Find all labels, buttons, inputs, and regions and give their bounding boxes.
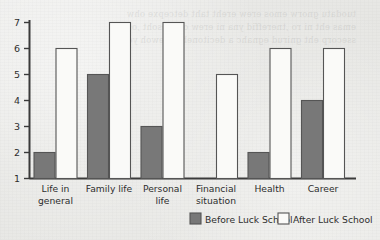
bars-group bbox=[34, 23, 345, 179]
legend-swatch-after bbox=[278, 213, 289, 224]
bar-after-family-life bbox=[110, 23, 131, 179]
bar-after-health bbox=[270, 49, 291, 179]
category-label-career: Career bbox=[308, 183, 339, 194]
y-tick-label-5: 5 bbox=[14, 69, 20, 80]
bar-before-life-in-general bbox=[34, 153, 55, 179]
chart-legend: Before Luck SchoolAfter Luck School bbox=[190, 213, 373, 225]
chart-plot-area: 1 2 3 4 5 6 7 Life ingeneralFamily lifeP… bbox=[0, 0, 380, 240]
category-label-life-in-general: Life in bbox=[42, 183, 70, 194]
y-tick-label-1: 1 bbox=[14, 173, 20, 184]
y-axis-tick-labels: 1 2 3 4 5 6 7 bbox=[14, 17, 20, 184]
legend-label-after: After Luck School bbox=[293, 214, 373, 225]
category-label-life-in-general: general bbox=[38, 195, 73, 206]
bar-after-career bbox=[324, 49, 345, 179]
bar-after-personal-life bbox=[163, 23, 184, 179]
category-label-family-life: Family life bbox=[86, 183, 133, 194]
luck-school-bar-chart: tuodatu gnorw emos erew ereht taht detce… bbox=[0, 0, 380, 240]
bar-before-health bbox=[248, 153, 269, 179]
y-tick-label-6: 6 bbox=[14, 43, 20, 54]
bar-after-financial-situation bbox=[217, 75, 238, 179]
bar-before-family-life bbox=[88, 75, 109, 179]
y-tick-label-2: 2 bbox=[14, 147, 20, 158]
bar-before-personal-life bbox=[141, 127, 162, 179]
legend-swatch-before bbox=[190, 213, 201, 224]
y-tick-label-3: 3 bbox=[14, 121, 20, 132]
y-tick-label-4: 4 bbox=[14, 95, 20, 106]
category-label-financial-situation: Financial bbox=[196, 183, 236, 194]
category-label-personal-life: life bbox=[156, 195, 170, 206]
category-label-health: Health bbox=[254, 183, 284, 194]
bar-before-career bbox=[302, 101, 323, 179]
y-tick-label-7: 7 bbox=[14, 17, 20, 28]
category-label-financial-situation: situation bbox=[196, 195, 236, 206]
category-label-personal-life: Personal bbox=[143, 183, 182, 194]
bar-after-life-in-general bbox=[56, 49, 77, 179]
category-labels-group: Life ingeneralFamily lifePersonallifeFin… bbox=[38, 183, 339, 206]
